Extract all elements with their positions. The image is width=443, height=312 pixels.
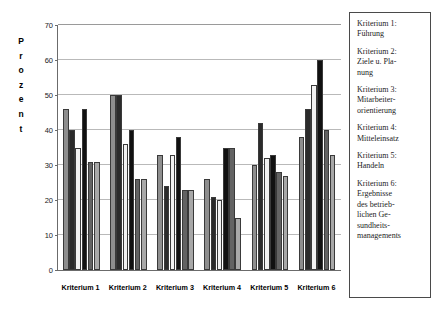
bar bbox=[82, 109, 88, 270]
bar bbox=[299, 137, 305, 270]
bar bbox=[311, 85, 317, 271]
bar bbox=[283, 176, 289, 271]
y-tick-label: 70 bbox=[45, 21, 53, 30]
legend-entry-line: Ergebnisse bbox=[357, 189, 425, 199]
x-axis-labels: Kriterium 1Kriterium 2Kriterium 3Kriteri… bbox=[57, 283, 340, 297]
bar bbox=[69, 130, 75, 270]
x-axis-label: Kriterium 6 bbox=[297, 283, 335, 292]
bar bbox=[264, 158, 270, 270]
legend-entry-line: Ziele u. Pla- bbox=[357, 57, 425, 67]
x-axis-label: Kriterium 4 bbox=[203, 283, 241, 292]
y-axis-title-letter: r bbox=[19, 49, 22, 64]
bar bbox=[270, 155, 276, 271]
bar-group bbox=[63, 25, 100, 270]
legend-entry: Kriterium 6:Ergebnissedes betrieb-lichen… bbox=[357, 179, 425, 241]
y-tick-label: 0 bbox=[49, 266, 53, 275]
legend-entry-line: Kriterium 5: bbox=[357, 151, 425, 161]
bar bbox=[129, 130, 135, 270]
bar bbox=[170, 155, 176, 271]
bar bbox=[182, 190, 188, 271]
legend-entry-line: Mitteleinsatz bbox=[357, 134, 425, 144]
bar bbox=[94, 162, 100, 271]
legend-entry: Kriterium 4:Mitteleinsatz bbox=[357, 123, 425, 144]
legend-entry: Kriterium 5:Handeln bbox=[357, 151, 425, 172]
y-axis-title-letter: o bbox=[18, 63, 23, 78]
y-axis-title: Prozent bbox=[14, 34, 28, 136]
legend-entry-line: sundheits- bbox=[357, 221, 425, 231]
y-axis-title-letter: z bbox=[19, 78, 23, 93]
legend-entry-line: orientierung bbox=[357, 106, 425, 116]
legend-entry-line: Kriterium 2: bbox=[357, 47, 425, 57]
legend-entry-line: lichen Ge- bbox=[357, 210, 425, 220]
legend-entry: Kriterium 1:Führung bbox=[357, 19, 425, 40]
legend-entry-line: Handeln bbox=[357, 161, 425, 171]
bar-group bbox=[299, 25, 336, 270]
bar bbox=[164, 186, 170, 270]
y-axis-title-letter: t bbox=[20, 122, 23, 137]
legend-entry: Kriterium 3:Mitarbeiter-orientierung bbox=[357, 85, 425, 116]
y-axis-title-letter: n bbox=[18, 107, 23, 122]
bar-group bbox=[252, 25, 289, 270]
legend-entry-line: Mitarbeiter- bbox=[357, 95, 425, 105]
bar-group bbox=[157, 25, 194, 270]
bar bbox=[211, 197, 217, 271]
bar bbox=[229, 148, 235, 271]
bar bbox=[63, 109, 69, 270]
legend-entry: Kriterium 2:Ziele u. Pla-nung bbox=[357, 47, 425, 78]
x-axis-label: Kriterium 3 bbox=[156, 283, 194, 292]
bar bbox=[204, 179, 210, 270]
bar bbox=[75, 148, 81, 271]
bar bbox=[324, 130, 330, 270]
legend-entry-line: Kriterium 6: bbox=[357, 179, 425, 189]
bar bbox=[176, 137, 182, 270]
bar bbox=[157, 155, 163, 271]
y-tick-label: 30 bbox=[45, 161, 53, 170]
bar-group bbox=[204, 25, 241, 270]
bar bbox=[252, 165, 258, 270]
legend-entry-line: Führung bbox=[357, 29, 425, 39]
x-axis-label: Kriterium 1 bbox=[62, 283, 100, 292]
bar bbox=[116, 95, 122, 270]
bar-group bbox=[110, 25, 147, 270]
bar bbox=[223, 148, 229, 271]
legend-entry-line: managements bbox=[357, 231, 425, 241]
legend: Kriterium 1:FührungKriterium 2:Ziele u. … bbox=[349, 12, 431, 298]
bar bbox=[217, 200, 223, 270]
bar bbox=[235, 218, 241, 271]
y-tick-label: 40 bbox=[45, 126, 53, 135]
bar bbox=[258, 123, 264, 270]
x-axis-label: Kriterium 2 bbox=[109, 283, 147, 292]
y-tick-label: 10 bbox=[45, 231, 53, 240]
bar bbox=[276, 172, 282, 270]
x-axis-label: Kriterium 5 bbox=[250, 283, 288, 292]
y-tick-mark bbox=[55, 270, 58, 271]
y-axis-title-letter: e bbox=[19, 92, 24, 107]
bars-layer bbox=[58, 25, 341, 270]
y-tick-label: 20 bbox=[45, 196, 53, 205]
bar bbox=[188, 190, 194, 271]
bar bbox=[141, 179, 147, 270]
y-tick-label: 60 bbox=[45, 56, 53, 65]
bar bbox=[317, 60, 323, 270]
bar-chart: Prozent 010203040506070 Kriterium 1Krite… bbox=[0, 0, 443, 312]
plot-area: 010203040506070 bbox=[57, 25, 341, 271]
y-axis-title-letter: P bbox=[18, 34, 24, 49]
bar bbox=[88, 162, 94, 271]
y-tick-label: 50 bbox=[45, 91, 53, 100]
legend-entry-line: Kriterium 1: bbox=[357, 19, 425, 29]
bar bbox=[305, 109, 311, 270]
bar bbox=[330, 155, 336, 271]
legend-entry-line: Kriterium 3: bbox=[357, 85, 425, 95]
bar bbox=[135, 179, 141, 270]
legend-entry-line: nung bbox=[357, 68, 425, 78]
legend-entry-line: Kriterium 4: bbox=[357, 123, 425, 133]
bar bbox=[123, 144, 129, 270]
legend-entry-line: des betrieb- bbox=[357, 200, 425, 210]
bar bbox=[110, 95, 116, 270]
